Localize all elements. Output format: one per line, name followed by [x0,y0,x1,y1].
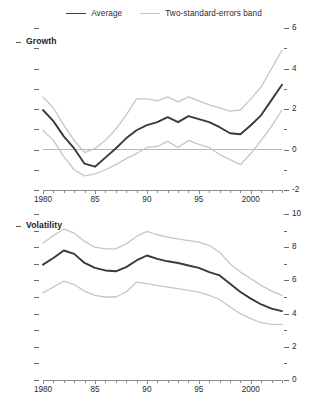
y-tick-left [34,231,39,232]
volatility-average-line [43,251,282,312]
volatility-title-tick-icon [16,226,21,227]
x-tick-label: 90 [142,195,151,204]
x-tick-minor [261,190,262,193]
x-tick-minor [157,190,158,193]
plot-area-volatility [43,214,282,380]
y-tick-minor [284,264,287,265]
x-tick-minor [126,190,127,193]
x-tick-minor [209,190,210,193]
panel-volatility: Volatility 0246810 19808590952000 [0,214,328,404]
legend-label-average: Average [91,9,122,18]
x-tick-minor [168,380,169,383]
x-tick-minor [74,190,75,193]
plot-area-growth [43,28,282,190]
y-tick-major [284,347,289,348]
y-tick-left [34,28,39,29]
x-tick-label: 85 [90,385,99,394]
y-tick-minor [284,129,287,130]
x-tick-minor [168,190,169,193]
growth-average-line [43,85,282,167]
legend-line-average-icon [66,13,86,14]
x-tick-minor [220,190,221,193]
x-tick-minor [240,190,241,193]
y-tick-label: 6 [292,275,297,284]
y-tick-label: 2 [292,342,297,351]
y-tick-left [34,280,39,281]
y-tick-label: -2 [292,185,299,194]
y-tick-left [34,297,39,298]
y-tick-minor [284,231,287,232]
x-tick-label: 95 [194,195,203,204]
legend-line-band-icon [140,13,160,14]
x-tick-major [199,190,200,194]
x-tick-minor [116,190,117,193]
growth-svg [43,28,282,190]
y-tick-major [284,28,289,29]
x-tick-major [95,190,96,194]
y-tick-left [34,69,39,70]
x-tick-minor [126,380,127,383]
y-tick-major [284,314,289,315]
y-tick-left [34,190,39,191]
growth-upper-band-line [43,50,282,152]
x-tick-minor [105,190,106,193]
y-tick-major [284,380,289,381]
x-tick-label: 2000 [242,195,260,204]
y-tick-minor [284,297,287,298]
chart-figure: Average Two-standard-errors band Growth … [0,0,328,407]
x-tick-minor [85,190,86,193]
y-tick-label: 4 [292,309,297,318]
y-tick-major [284,280,289,281]
y-tick-label: 8 [292,242,297,251]
x-tick-minor [282,190,283,193]
x-tick-major [251,190,252,194]
x-tick-major [95,380,96,384]
y-tick-left [34,330,39,331]
x-tick-minor [188,380,189,383]
growth-title-tick-icon [16,42,21,43]
y-tick-major [284,109,289,110]
y-tick-major [284,150,289,151]
y-tick-label: 4 [292,64,297,73]
x-tick-minor [74,380,75,383]
x-tick-minor [137,380,138,383]
y-tick-left [34,129,39,130]
y-tick-left [34,380,39,381]
legend-item-band: Two-standard-errors band [140,9,262,18]
x-tick-label: 85 [90,195,99,204]
x-tick-label: 1980 [34,195,52,204]
y-tick-minor [284,89,287,90]
x-tick-minor [209,380,210,383]
x-tick-major [147,380,148,384]
x-tick-minor [105,380,106,383]
x-tick-label: 1980 [34,385,52,394]
x-tick-minor [240,380,241,383]
volatility-upper-band-line [43,229,282,295]
legend-item-average: Average [66,9,122,18]
x-tick-major [147,190,148,194]
panel-growth: Growth -20246 19808590952000 [0,28,328,208]
y-tick-left [34,150,39,151]
x-tick-minor [157,380,158,383]
y-tick-minor [284,48,287,49]
y-tick-left [34,247,39,248]
volatility-x-axis-line [43,380,282,381]
x-tick-label: 2000 [242,385,260,394]
y-tick-minor [284,330,287,331]
y-tick-left [34,264,39,265]
x-tick-minor [230,190,231,193]
x-tick-minor [178,380,179,383]
y-tick-major [284,190,289,191]
y-tick-label: 2 [292,104,297,113]
x-tick-major [43,190,44,194]
x-tick-minor [230,380,231,383]
x-tick-major [43,380,44,384]
x-tick-label: 95 [194,385,203,394]
x-tick-minor [282,380,283,383]
y-tick-major [284,69,289,70]
x-tick-label: 90 [142,385,151,394]
y-tick-left [34,170,39,171]
x-tick-minor [116,380,117,383]
volatility-lower-band-line [43,281,282,324]
x-tick-minor [272,190,273,193]
